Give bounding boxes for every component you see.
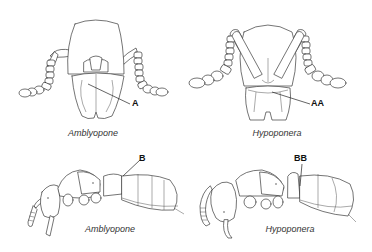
diagram-artwork <box>0 0 372 252</box>
amblyopone-left-antenna <box>19 49 72 97</box>
amblyopone-head-drawing <box>19 20 168 119</box>
leader-line-b <box>123 160 140 176</box>
caption-amblyopone-body: Amblyopone <box>85 224 135 234</box>
label-aa: AA <box>311 98 324 108</box>
hypoponera-gaster <box>300 175 354 216</box>
label-b: B <box>139 153 146 163</box>
hypoponera-lateral-head <box>211 182 237 222</box>
label-bb: BB <box>294 153 307 163</box>
amblyopone-right-antenna <box>120 48 168 96</box>
label-a: A <box>132 98 139 108</box>
ant-comparison-diagram: A AA B BB Amblyopone Hypoponera Amblyopo… <box>0 0 372 252</box>
amblyopone-mandibles <box>72 73 124 119</box>
caption-hypoponera-body: Hypoponera <box>265 224 314 234</box>
caption-amblyopone-head: Amblyopone <box>68 128 118 138</box>
amblyopone-lateral-head <box>40 185 60 218</box>
caption-hypoponera-head: Hypoponera <box>252 128 301 138</box>
